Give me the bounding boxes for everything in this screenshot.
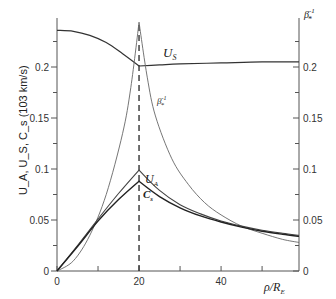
y-tick-label-right: 0 [303,266,309,277]
y-right-axis-title: β-1* [303,7,315,24]
y-tick-label-right: 0.05 [303,215,323,226]
series-group [57,22,299,271]
label-beta: β-1* [156,95,166,109]
y-left-axis-title: U_A, U_S, C_s (103 km/s) [17,65,29,195]
chart: 000.050.050.10.10.150.150.20.202040 US β… [0,0,336,299]
y-tick-label-left: 0.15 [30,113,50,124]
y-tick-label-right: 0.1 [303,164,317,175]
series-c-s [57,181,299,271]
y-tick-label-left: 0.1 [35,164,49,175]
series-u-s [57,30,299,66]
x-tick-label: 20 [133,276,145,287]
series-u-a [57,170,299,271]
y-tick-label-right: 0.15 [303,113,323,124]
y-tick-label-left: 0.2 [35,62,49,73]
x-tick-label: 40 [216,276,228,287]
series-beta-inv [57,22,299,271]
label-ua: UA [145,172,159,188]
y-tick-label-left: 0.05 [30,215,50,226]
y-tick-label-right: 0.2 [303,62,317,73]
x-axis-title: ρ/RE [263,280,285,296]
x-tick-label: 0 [54,276,60,287]
label-us: US [163,45,176,62]
y-tick-label-left: 0 [43,266,49,277]
